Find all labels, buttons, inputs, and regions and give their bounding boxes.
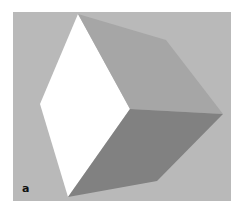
panel-label: a [22, 183, 29, 194]
cube-diagram [0, 0, 247, 212]
